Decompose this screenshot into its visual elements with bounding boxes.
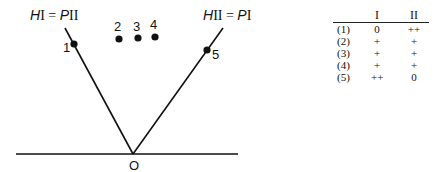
- header-II: II: [407, 8, 421, 23]
- row-label: (2): [337, 35, 350, 47]
- table-header: I II: [333, 6, 429, 23]
- cell-II: +: [407, 35, 421, 47]
- right-line-label: HII = PI: [203, 7, 252, 23]
- left-line-label: HI = PII: [30, 7, 79, 23]
- point-5: [203, 46, 210, 53]
- point-5-label: 5: [212, 47, 219, 62]
- cell-II: +: [407, 59, 421, 71]
- right-line: [133, 28, 223, 154]
- table-row: (1) 0 ++: [333, 23, 429, 35]
- cell-I: +: [371, 47, 383, 59]
- point-2-label: 2: [114, 19, 121, 34]
- cell-I: ++: [371, 71, 383, 83]
- row-label: (1): [337, 23, 350, 35]
- origin-label: O: [129, 158, 139, 172]
- point-2: [115, 35, 122, 42]
- hp-diagram: HI = PII HII = PI 1 2 3 4 5 O: [0, 0, 300, 172]
- table-row: (4) + +: [333, 59, 429, 71]
- point-4: [151, 33, 158, 40]
- cell-II: 0: [407, 71, 421, 83]
- cell-II: +: [407, 47, 421, 59]
- cell-I: 0: [371, 23, 383, 35]
- table-row: (3) + +: [333, 47, 429, 59]
- point-1-label: 1: [63, 40, 70, 55]
- header-I: I: [371, 8, 383, 23]
- point-3: [134, 34, 141, 41]
- cell-II: ++: [407, 23, 421, 35]
- row-label: (4): [337, 59, 350, 71]
- cell-I: +: [371, 59, 383, 71]
- table-row: (5) ++ 0: [333, 71, 429, 83]
- table-row: (2) + +: [333, 35, 429, 47]
- sign-table: I II (1) 0 ++ (2) + + (3) + + (4) + + (5…: [333, 6, 429, 83]
- cell-I: +: [371, 35, 383, 47]
- row-label: (5): [337, 71, 350, 83]
- point-4-label: 4: [150, 17, 157, 32]
- point-1: [70, 40, 77, 47]
- point-3-label: 3: [133, 19, 140, 34]
- row-label: (3): [337, 47, 350, 59]
